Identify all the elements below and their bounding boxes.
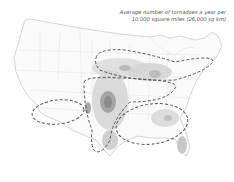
caption-line-1: Average number of tornadoes a year per (96, 9, 226, 16)
map-caption: Average number of tornadoes a year per 1… (96, 9, 226, 23)
us-map (0, 0, 234, 182)
tornado-map-figure: Average number of tornadoes a year per 1… (0, 0, 234, 182)
caption-line-2: 10,000 square miles (26,000 sq km) (96, 16, 226, 23)
